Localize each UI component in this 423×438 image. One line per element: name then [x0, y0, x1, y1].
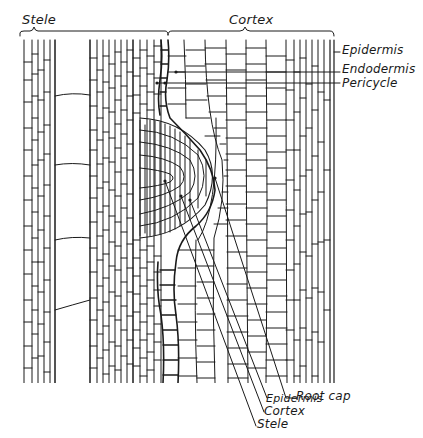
epidermis-bottom-leader [190, 200, 267, 398]
cortex-bottom-label: Cortex [264, 405, 305, 417]
stele-bottom-label: Stele [257, 418, 288, 430]
epidermis-label: Epidermis [342, 44, 404, 56]
cortex-label: Cortex [229, 13, 273, 26]
pericycle-label: Pericycle [342, 77, 398, 89]
root-section-diagram: Stele Cortex Epidermis Endodermis Pericy… [0, 0, 423, 438]
endodermis-label: Endodermis [342, 63, 415, 75]
cortex-brace [168, 27, 334, 36]
epidermis-bottom-label: Epidermis [266, 393, 323, 404]
stele-label: Stele [22, 13, 56, 26]
stele-brace [20, 27, 168, 36]
